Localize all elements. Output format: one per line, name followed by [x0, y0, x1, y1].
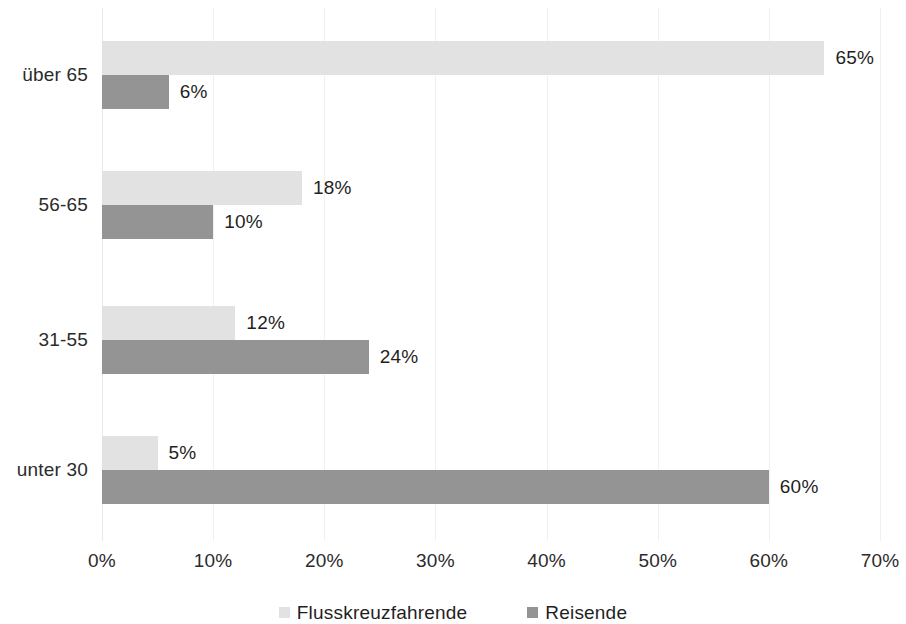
category-label: über 65	[0, 64, 88, 86]
category-label: unter 30	[0, 459, 88, 481]
plot-area: 65%6%18%10%12%24%5%60%	[102, 8, 880, 541]
x-tick-label: 0%	[52, 550, 152, 572]
category-label: 31-55	[0, 329, 88, 351]
bar-group: 18%10%	[102, 171, 880, 239]
x-tick-label: 40%	[497, 550, 597, 572]
x-tick-label: 70%	[830, 550, 906, 572]
x-tick-label: 10%	[163, 550, 263, 572]
bar-value-label: 18%	[313, 177, 352, 199]
bar-dark[interactable]	[102, 75, 169, 109]
bar-value-label: 24%	[380, 346, 419, 368]
bar-dark[interactable]	[102, 340, 369, 374]
legend-item[interactable]: Reisende	[527, 602, 627, 624]
bar-value-label: 5%	[169, 442, 197, 464]
bar-value-label: 12%	[246, 312, 285, 334]
bar-dark[interactable]	[102, 470, 769, 504]
category-label: 56-65	[0, 194, 88, 216]
bar-value-label: 60%	[780, 476, 819, 498]
bar-group: 5%60%	[102, 436, 880, 504]
bar-group: 12%24%	[102, 306, 880, 374]
gridline-70	[880, 8, 881, 541]
legend-item[interactable]: Flusskreuzfahrende	[279, 602, 467, 624]
legend: FlusskreuzfahrendeReisende	[0, 601, 906, 624]
bar-light[interactable]	[102, 41, 824, 75]
x-tick-label: 30%	[385, 550, 485, 572]
bar-light[interactable]	[102, 306, 235, 340]
value-axis: 0%10%20%30%40%50%60%70%	[0, 550, 906, 576]
bar-chart: 65%6%18%10%12%24%5%60% über 6556-6531-55…	[0, 0, 906, 624]
legend-label: Reisende	[545, 602, 627, 624]
legend-swatch-icon	[527, 607, 538, 618]
bar-group: 65%6%	[102, 41, 880, 109]
x-tick-label: 60%	[719, 550, 819, 572]
bar-light[interactable]	[102, 171, 302, 205]
bar-value-label: 6%	[180, 81, 208, 103]
x-tick-label: 20%	[274, 550, 374, 572]
x-tick-label: 50%	[608, 550, 708, 572]
bar-dark[interactable]	[102, 205, 213, 239]
bar-value-label: 10%	[224, 211, 263, 233]
bar-light[interactable]	[102, 436, 158, 470]
legend-label: Flusskreuzfahrende	[297, 602, 467, 624]
legend-swatch-icon	[279, 607, 290, 618]
bar-value-label: 65%	[835, 47, 874, 69]
